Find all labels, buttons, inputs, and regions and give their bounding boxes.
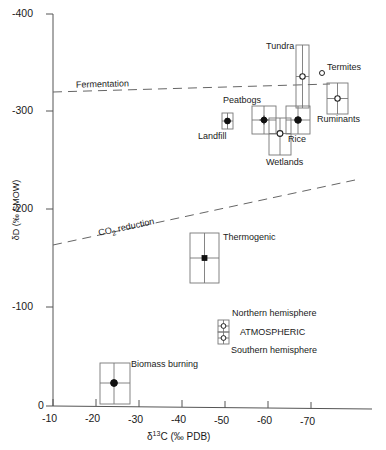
data-box-tundra <box>296 45 309 108</box>
x-axis-title: δ13C (‰ PDB) <box>147 430 210 442</box>
series-label-northern-hemisphere: Northern hemisphere <box>232 308 317 318</box>
x-axis-title-rest: C (‰ PDB) <box>160 431 210 442</box>
series-label-termites: Termites <box>327 62 361 72</box>
data-box-southern-hemisphere <box>218 332 229 344</box>
y-tick-label-400: -400 <box>12 7 33 19</box>
series-label-tundra: Tundra <box>266 41 294 51</box>
y-axis <box>46 14 53 406</box>
data-box-landfill <box>222 113 233 129</box>
data-box-rice <box>286 106 310 134</box>
data-box-biomass-burning <box>100 363 130 404</box>
series-label-rice: Rice <box>288 134 306 144</box>
x-tick-label-50: -50 <box>214 414 229 426</box>
data-box-termites-ruminants <box>327 83 348 114</box>
series-label-ruminants: Ruminants <box>317 114 360 124</box>
group-label-atmospheric: ATMOSPHERIC <box>240 327 305 337</box>
series-label-biomass-burning: Biomass burning <box>131 359 198 369</box>
y-tick-label-100: -100 <box>12 300 33 312</box>
data-box-northern-hemisphere <box>218 320 229 332</box>
y-tick-label-0: 0 <box>38 399 44 411</box>
series-label-southern-hemisphere: Southern hemisphere <box>231 345 317 355</box>
termites-open-marker <box>320 71 325 76</box>
y-tick-label-300: -300 <box>12 104 33 116</box>
series-label-wetlands: Wetlands <box>266 157 303 167</box>
data-box-thermogenic <box>190 233 219 283</box>
chart-figure: -400 -300 -200 -100 0 -10 -20 -30 -40 -5… <box>0 0 386 450</box>
series-label-peatbogs: Peatbogs <box>223 95 261 105</box>
x-tick-label-10: -10 <box>42 412 57 424</box>
data-box-peatbogs <box>252 106 276 134</box>
x-tick-label-60: -60 <box>257 414 272 426</box>
x-tick-label-40: -40 <box>171 413 186 425</box>
x-tick-label-20: -20 <box>85 412 100 424</box>
co2-label-prefix: CO <box>97 225 112 238</box>
x-tick-label-70: -70 <box>300 415 315 427</box>
x-tick-label-30: -30 <box>128 413 143 425</box>
series-label-landfill: Landfill <box>198 131 227 141</box>
y-axis-title: δD (‰ SMOW) <box>11 167 21 253</box>
trend-label-fermentation: Fermentation <box>76 78 129 89</box>
series-label-thermogenic: Thermogenic <box>223 232 276 242</box>
